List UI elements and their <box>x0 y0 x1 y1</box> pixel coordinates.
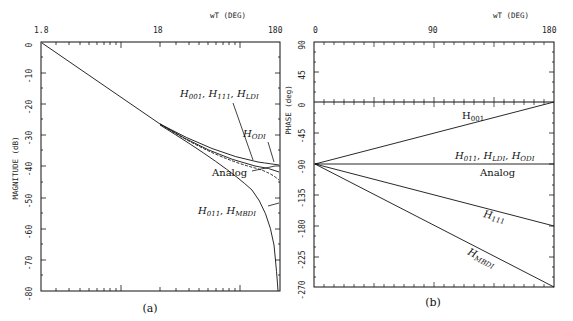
svg-text:45: 45 <box>298 70 307 80</box>
svg-text:-270: -270 <box>298 280 307 299</box>
y-axis-label-b: PHASE (deg) <box>284 85 293 135</box>
svg-text:-135: -135 <box>298 188 307 207</box>
annotation-h001: H001 <box>462 110 484 123</box>
y-tick-labels-b: 90 45 0 -45 -90 -135 -180 -225 -270 <box>298 40 307 300</box>
annotation-h011-hldi-hodi: H011, HLDI, HODI <box>454 150 535 163</box>
x-tick-label-b: 0 <box>313 26 318 35</box>
x-ticks-b <box>324 42 544 287</box>
svg-text:-10: -10 <box>25 69 34 84</box>
panel-a-magnitude-plot: 1.8 18 180 wT (DEG) 0 -10 -20 -30 -40 -5… <box>11 11 283 315</box>
svg-text:-20: -20 <box>25 100 34 115</box>
svg-text:-40: -40 <box>25 162 34 177</box>
x-tick-label-b: 90 <box>428 26 438 35</box>
x-tick-label-a: 1.8 <box>34 26 49 35</box>
figure: 1.8 18 180 wT (DEG) 0 -10 -20 -30 -40 -5… <box>0 0 573 321</box>
svg-text:-70: -70 <box>25 256 34 271</box>
x-ticks-bottom-a <box>56 285 240 291</box>
svg-text:-30: -30 <box>25 131 34 146</box>
svg-text:-60: -60 <box>25 225 34 240</box>
x-tick-label-b: 180 <box>542 26 557 35</box>
panel-b-phase-plot: 0 90 180 wT (DEG) 90 45 0 -45 -90 -135 -… <box>284 11 557 309</box>
x-tick-label-a: 18 <box>153 26 163 35</box>
y-axis-label-a: MAGNITUDE (dB) <box>11 136 20 199</box>
line-h111 <box>315 164 554 226</box>
svg-text:-225: -225 <box>298 250 307 269</box>
annotation-h001-h111-hldi: H001, H111, HLDI <box>179 88 259 101</box>
x-ticks-top-a <box>56 42 240 48</box>
line-hmbdi <box>315 164 554 287</box>
annotation-analog: Analog <box>211 167 248 178</box>
svg-text:0: 0 <box>298 102 307 107</box>
svg-text:-80: -80 <box>25 287 34 302</box>
svg-text:-45: -45 <box>298 129 307 144</box>
y-ticks-b <box>314 52 554 277</box>
svg-text:90: 90 <box>298 40 307 50</box>
caption-b: (b) <box>425 296 441 309</box>
x-tick-label-a: 180 <box>268 26 283 35</box>
annotation-h011-hmbdi: H011, HMBDI <box>197 205 256 218</box>
annotation-leaders-a <box>233 103 279 206</box>
curves-b <box>315 102 554 287</box>
svg-text:-180: -180 <box>298 219 307 238</box>
caption-a: (a) <box>142 302 157 315</box>
plot-frame-b <box>314 42 554 287</box>
x-axis-label-a: wT (DEG) <box>210 11 246 20</box>
curve-h001-h111-hldi <box>42 43 279 172</box>
curve-h011-hmbdi <box>160 125 278 291</box>
svg-text:-50: -50 <box>25 194 34 209</box>
y-tick-labels-a: 0 -10 -20 -30 -40 -50 -60 -70 -80 <box>25 42 34 301</box>
annotation-analog-b: Analog <box>479 167 516 178</box>
x-axis-label-b: wT (DEG) <box>493 11 529 20</box>
svg-text:0: 0 <box>25 42 34 47</box>
svg-text:-90: -90 <box>298 160 307 175</box>
curve-hodi <box>160 124 279 165</box>
